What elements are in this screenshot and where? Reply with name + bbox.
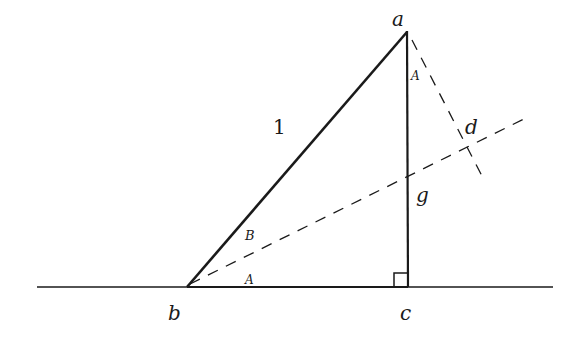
label-vertex-c: c [400,301,411,325]
dashed-line-ad [412,40,484,180]
hypotenuse-ab [187,32,407,287]
triangle-diagram: a b c d 1 g A B A [0,0,578,340]
label-side-g: g [416,183,429,207]
label-vertex-b: b [168,301,181,325]
right-angle-marker [394,273,408,287]
label-angle-b: B [244,228,255,243]
label-point-d: d [465,115,478,139]
side-ac [407,31,408,287]
label-hypotenuse: 1 [273,115,286,139]
label-vertex-a: a [392,7,404,31]
label-angle-a-bottom: A [244,273,254,287]
label-angle-a-top: A [410,69,420,83]
dashed-line-bd [190,117,528,284]
